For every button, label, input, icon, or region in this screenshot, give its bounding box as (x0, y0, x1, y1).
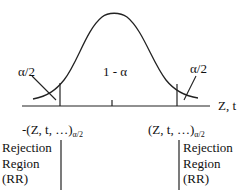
left-rejection-region-label: Rejection Region (RR) (2, 140, 52, 187)
left-rr-line-2: Region (2, 156, 52, 172)
left-critical-value: -(Z, t, …)α/2 (22, 122, 83, 142)
left-rr-line-1: Rejection (2, 140, 52, 156)
left-tail-alpha-label: α/2 (18, 64, 35, 79)
right-critical-value-subscript: α/2 (194, 130, 204, 139)
center-confidence-label: 1 - α (103, 64, 127, 79)
left-rr-line-3: (RR) (2, 171, 52, 187)
right-rr-line-2: Region (183, 156, 233, 172)
right-tail-alpha-label: α/2 (190, 61, 207, 76)
right-rr-line-3: (RR) (183, 171, 233, 187)
axis-label: Z, t (218, 98, 236, 113)
left-critical-value-subscript: α/2 (73, 130, 83, 139)
right-critical-value-main: (Z, t, …) (148, 122, 194, 137)
left-critical-value-main: -(Z, t, …) (22, 122, 73, 137)
right-rejection-region-label: Rejection Region (RR) (183, 140, 233, 187)
bell-curve (33, 13, 198, 99)
right-rr-line-1: Rejection (183, 140, 233, 156)
right-critical-value: (Z, t, …)α/2 (148, 122, 205, 142)
